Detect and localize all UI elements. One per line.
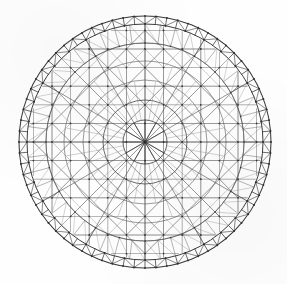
perimeter-node-outer — [20, 163, 22, 165]
perimeter-node-outer — [166, 17, 168, 19]
perimeter-node-outer — [177, 19, 179, 21]
grid-node — [144, 67, 146, 69]
grid-node — [200, 104, 202, 106]
grid-node — [237, 85, 239, 87]
grid-node — [70, 216, 72, 218]
perimeter-node-outer — [233, 52, 235, 54]
grid-node — [219, 67, 221, 69]
ring-band-node — [170, 237, 172, 239]
grid-node — [200, 197, 202, 199]
grid-node — [126, 48, 128, 50]
perimeter-node-outer — [81, 32, 83, 34]
grid-node — [51, 104, 53, 106]
grid-node — [88, 48, 90, 50]
perimeter-node-inner — [220, 231, 222, 233]
perimeter-node-outer — [48, 222, 50, 224]
grid-node — [88, 216, 90, 218]
ring-band-node — [95, 227, 97, 229]
perimeter-node-outer — [144, 267, 146, 269]
ring-band-node — [144, 42, 146, 44]
ring-band-node — [74, 211, 76, 213]
grid-node — [181, 67, 183, 69]
ring-band-node — [58, 191, 60, 193]
grid-node — [70, 123, 72, 125]
perimeter-node-outer — [262, 98, 264, 100]
grid-node — [126, 104, 128, 106]
grid-node — [219, 197, 221, 199]
perimeter-node-outer — [207, 250, 209, 252]
perimeter-node-outer — [101, 259, 103, 261]
perimeter-node-inner — [26, 141, 28, 143]
ring-band-node — [243, 141, 245, 143]
grid-node — [88, 160, 90, 162]
perimeter-node-outer — [26, 184, 28, 186]
perimeter-node-inner — [234, 217, 236, 219]
dome-truss-figure — [0, 0, 287, 284]
grid-node — [163, 178, 165, 180]
grid-node — [163, 123, 165, 125]
ring-band-node — [214, 211, 216, 213]
grid-node — [126, 30, 128, 32]
grid-node — [163, 48, 165, 50]
perimeter-node-outer — [233, 230, 235, 232]
grid-node — [70, 141, 72, 143]
grid-node — [33, 123, 35, 125]
grid-node — [70, 104, 72, 106]
perimeter-node-outer — [133, 16, 135, 18]
perimeter-node-inner — [104, 252, 106, 254]
perimeter-node-outer — [258, 88, 260, 90]
grid-node — [88, 141, 90, 143]
grid-node — [88, 234, 90, 236]
grid-node — [144, 85, 146, 87]
perimeter-node-inner — [246, 200, 248, 202]
grid-node — [144, 48, 146, 50]
grid-node — [181, 160, 183, 162]
perimeter-node-outer — [63, 45, 65, 47]
perimeter-node-inner — [42, 200, 44, 202]
grid-node — [163, 253, 165, 255]
grid-node — [107, 85, 109, 87]
perimeter-node-outer — [48, 60, 50, 62]
perimeter-node-inner — [262, 141, 264, 143]
grid-node — [181, 104, 183, 106]
perimeter-node-inner — [124, 25, 126, 27]
grid-node — [237, 197, 239, 199]
perimeter-node-outer — [270, 141, 272, 143]
ring-band-node — [230, 92, 232, 94]
grid-node — [126, 216, 128, 218]
grid-node — [107, 160, 109, 162]
grid-node — [219, 123, 221, 125]
grid-node — [144, 234, 146, 236]
perimeter-node-outer — [247, 69, 249, 71]
perimeter-node-outer — [225, 238, 227, 240]
perimeter-node-outer — [241, 60, 243, 62]
grid-node — [126, 197, 128, 199]
grid-node — [181, 178, 183, 180]
perimeter-node-inner — [42, 82, 44, 84]
perimeter-node-inner — [54, 217, 56, 219]
grid-node — [163, 104, 165, 106]
grid-node — [163, 85, 165, 87]
perimeter-node-outer — [22, 108, 24, 110]
perimeter-node-outer — [22, 174, 24, 176]
grid-node — [219, 178, 221, 180]
perimeter-node-outer — [55, 52, 57, 54]
perimeter-node-outer — [30, 88, 32, 90]
grid-node — [144, 123, 146, 125]
perimeter-node-outer — [155, 267, 157, 269]
grid-node — [107, 197, 109, 199]
perimeter-node-outer — [268, 163, 270, 165]
grid-node — [126, 160, 128, 162]
perimeter-node-outer — [270, 152, 272, 154]
perimeter-node-outer — [207, 32, 209, 34]
grid-node — [256, 141, 258, 143]
grid-node — [107, 216, 109, 218]
grid-node — [219, 216, 221, 218]
perimeter-node-outer — [241, 222, 243, 224]
grid-node — [70, 178, 72, 180]
grid-node — [126, 85, 128, 87]
perimeter-node-inner — [68, 51, 70, 53]
ring-band-node — [119, 237, 121, 239]
perimeter-node-outer — [270, 130, 272, 132]
perimeter-node-inner — [104, 30, 106, 32]
